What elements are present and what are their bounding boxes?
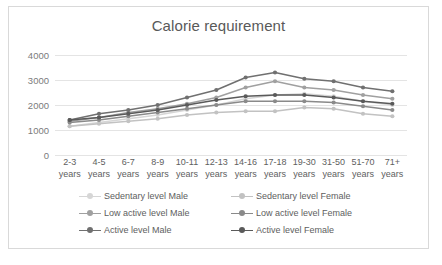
x-axis-tick-8: 19-30years: [290, 157, 319, 189]
data-point: [390, 108, 394, 112]
x-axis-tick-1: 4-5years: [84, 157, 113, 189]
legend-row: Active level MaleActive level Female: [55, 225, 407, 235]
legend-marker-icon: [231, 226, 253, 235]
data-point: [214, 103, 218, 107]
data-point: [302, 93, 306, 97]
x-axis-tick-4: 10-11years: [172, 157, 201, 189]
chart-screenshot: Calorie requirement 01000200030004000 2-…: [0, 0, 442, 265]
data-point: [361, 93, 365, 97]
data-point: [97, 112, 101, 116]
x-axis-tick-5: 12-13years: [202, 157, 231, 189]
chart-title: Calorie requirement: [9, 17, 428, 34]
data-point: [185, 113, 189, 117]
data-point: [244, 75, 248, 79]
data-point: [156, 103, 160, 107]
legend-label: Low active level Female: [256, 208, 352, 218]
x-axis-tick-6: 14-16years: [231, 157, 260, 189]
legend-marker-icon: [79, 226, 101, 235]
legend-marker-icon: [79, 192, 101, 201]
legend-marker-icon: [79, 209, 101, 218]
x-axis-tick-9: 31-50years: [319, 157, 348, 189]
data-point: [361, 112, 365, 116]
legend-label: Active level Female: [256, 225, 334, 235]
data-point: [97, 115, 101, 119]
series-line: [70, 73, 393, 121]
data-point: [244, 85, 248, 89]
legend-marker-icon: [231, 192, 253, 201]
data-point: [185, 95, 189, 99]
chart-container: Calorie requirement 01000200030004000 2-…: [8, 6, 429, 249]
data-point: [97, 122, 101, 126]
data-point: [273, 79, 277, 83]
data-point: [390, 114, 394, 118]
legend-row: Sedentary level MaleSedentary level Fema…: [55, 191, 407, 201]
legend-marker-icon: [231, 209, 253, 218]
legend-item-sedentary-level-male[interactable]: Sedentary level Male: [79, 191, 231, 201]
x-axis-tick-10: 51-70years: [348, 157, 377, 189]
legend-item-active-level-female[interactable]: Active level Female: [231, 225, 383, 235]
data-point: [185, 107, 189, 111]
legend-item-low-active-level-male[interactable]: Low active level Male: [79, 208, 231, 218]
data-point: [273, 109, 277, 113]
data-point: [390, 102, 394, 106]
legend-label: Active level Male: [104, 225, 172, 235]
data-point: [332, 107, 336, 111]
y-axis: 01000200030004000: [9, 55, 53, 155]
data-point: [361, 85, 365, 89]
legend-label: Low active level Male: [104, 208, 190, 218]
plot-area: [55, 55, 407, 155]
x-axis-tick-7: 17-18years: [260, 157, 289, 189]
gridline-0: [55, 155, 407, 156]
data-point: [361, 99, 365, 103]
x-axis-tick-0: 2-3years: [55, 157, 84, 189]
y-axis-tick-4000: 4000: [28, 50, 49, 61]
legend-label: Sedentary level Female: [256, 191, 351, 201]
data-point: [273, 70, 277, 74]
data-point: [302, 99, 306, 103]
chart-legend: Sedentary level MaleSedentary level Fema…: [55, 191, 407, 242]
data-point: [302, 85, 306, 89]
data-point: [214, 110, 218, 114]
data-point: [332, 79, 336, 83]
x-axis-tick-3: 8-9years: [143, 157, 172, 189]
data-point: [126, 119, 130, 123]
data-point: [68, 118, 72, 122]
y-axis-tick-1000: 1000: [28, 125, 49, 136]
data-point: [302, 77, 306, 81]
x-axis-tick-11: 71+years: [378, 157, 407, 189]
data-point: [390, 89, 394, 93]
data-point: [244, 109, 248, 113]
legend-label: Sedentary level Male: [104, 191, 188, 201]
data-point: [302, 105, 306, 109]
data-point: [332, 88, 336, 92]
legend-item-low-active-level-female[interactable]: Low active level Female: [231, 208, 383, 218]
data-point: [126, 112, 130, 116]
x-axis: 2-3years4-5years6-7years8-9years10-11yea…: [55, 157, 407, 189]
legend-row: Low active level MaleLow active level Fe…: [55, 208, 407, 218]
data-point: [156, 117, 160, 121]
data-point: [126, 108, 130, 112]
data-point: [332, 100, 336, 104]
y-axis-tick-3000: 3000: [28, 75, 49, 86]
data-point: [244, 94, 248, 98]
data-point: [361, 104, 365, 108]
data-point: [68, 124, 72, 128]
y-axis-tick-2000: 2000: [28, 100, 49, 111]
data-point: [332, 95, 336, 99]
y-axis-tick-0: 0: [44, 150, 49, 161]
series-lines: [55, 55, 407, 155]
data-point: [273, 99, 277, 103]
series-sedentary-level-female: [68, 105, 395, 128]
data-point: [273, 93, 277, 97]
data-point: [244, 99, 248, 103]
data-point: [214, 98, 218, 102]
data-point: [214, 88, 218, 92]
legend-item-active-level-male[interactable]: Active level Male: [79, 225, 231, 235]
x-axis-tick-2: 6-7years: [114, 157, 143, 189]
data-point: [185, 103, 189, 107]
data-point: [156, 108, 160, 112]
series-line: [70, 95, 393, 120]
data-point: [390, 97, 394, 101]
legend-item-sedentary-level-female[interactable]: Sedentary level Female: [231, 191, 383, 201]
